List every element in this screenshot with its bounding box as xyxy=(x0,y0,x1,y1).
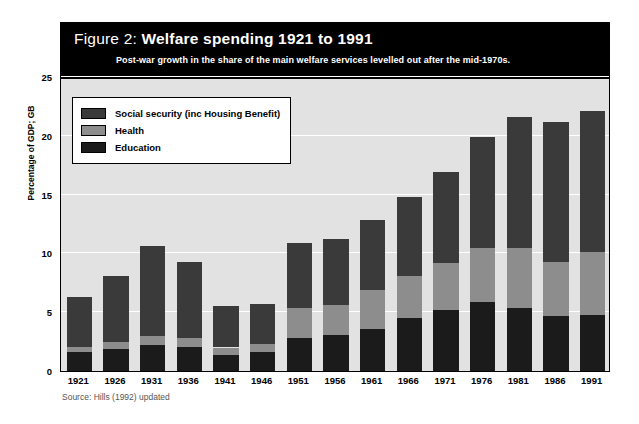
bar-segment-education[interactable] xyxy=(67,352,93,371)
bar-segment-social-security[interactable] xyxy=(507,117,533,248)
y-axis-title: Percentage of GDP; GB xyxy=(26,106,36,201)
bar-segment-social-security[interactable] xyxy=(360,220,386,289)
chart-legend: Social security (inc Housing Benefit)Hea… xyxy=(72,97,291,164)
bar-segment-social-security[interactable] xyxy=(397,197,423,276)
bar-segment-education[interactable] xyxy=(250,352,276,371)
bar-segment-health[interactable] xyxy=(580,252,606,314)
bar-segment-health[interactable] xyxy=(323,305,349,334)
legend-swatch-health xyxy=(81,125,106,136)
bar-segment-education[interactable] xyxy=(397,318,423,371)
x-tick-label: 1986 xyxy=(537,375,574,386)
bar-segment-social-security[interactable] xyxy=(287,243,313,308)
bar-segment-education[interactable] xyxy=(470,302,496,371)
bar-segment-education[interactable] xyxy=(507,308,533,372)
bar-segment-education[interactable] xyxy=(213,355,239,371)
bar-segment-health[interactable] xyxy=(287,308,313,339)
bar-segment-education[interactable] xyxy=(543,316,569,371)
bar-segment-education[interactable] xyxy=(177,347,203,371)
bar-segment-social-security[interactable] xyxy=(213,306,239,347)
bar-segment-education[interactable] xyxy=(580,315,606,371)
legend-item-health[interactable]: Health xyxy=(81,122,280,139)
y-tick-label: 0 xyxy=(26,366,52,377)
bar-segment-social-security[interactable] xyxy=(323,239,349,305)
bar-segment-health[interactable] xyxy=(433,263,459,310)
bar-segment-health[interactable] xyxy=(507,248,533,308)
x-tick-label: 1981 xyxy=(500,375,537,386)
bar-segment-health[interactable] xyxy=(177,338,203,347)
title-text: Welfare spending 1921 to 1991 xyxy=(141,30,372,47)
x-tick-label: 1971 xyxy=(427,375,464,386)
bar-segment-health[interactable] xyxy=(250,344,276,352)
bar-group[interactable] xyxy=(433,77,459,371)
bar-segment-health[interactable] xyxy=(360,290,386,329)
bar-segment-education[interactable] xyxy=(360,329,386,371)
x-tick-label: 1926 xyxy=(97,375,134,386)
source-note: Source: Hills (1992) updated xyxy=(62,392,170,402)
figure-number: Figure 2: xyxy=(74,30,141,47)
legend-label: Health xyxy=(115,125,144,136)
x-axis-tick-labels: 1921192619311936194119461951195619611966… xyxy=(60,375,610,391)
x-tick-label: 1936 xyxy=(170,375,207,386)
bar-segment-social-security[interactable] xyxy=(67,297,93,348)
bar-group[interactable] xyxy=(507,77,533,371)
bar-segment-social-security[interactable] xyxy=(177,262,203,338)
x-tick-label: 1921 xyxy=(60,375,97,386)
bar-segment-health[interactable] xyxy=(397,276,423,318)
bar-segment-social-security[interactable] xyxy=(103,276,129,342)
bar-segment-health[interactable] xyxy=(103,342,129,349)
bar-group[interactable] xyxy=(397,77,423,371)
bar-segment-education[interactable] xyxy=(140,345,166,371)
x-tick-label: 1976 xyxy=(463,375,500,386)
bar-segment-health[interactable] xyxy=(140,336,166,345)
bar-segment-education[interactable] xyxy=(323,335,349,371)
bar-segment-education[interactable] xyxy=(287,338,313,371)
x-tick-label: 1931 xyxy=(133,375,170,386)
x-tick-label: 1966 xyxy=(390,375,427,386)
x-tick-label: 1951 xyxy=(280,375,317,386)
x-tick-label: 1956 xyxy=(317,375,354,386)
bar-group[interactable] xyxy=(470,77,496,371)
bar-segment-health[interactable] xyxy=(213,348,239,355)
bar-segment-health[interactable] xyxy=(67,347,93,352)
legend-swatch-social-security xyxy=(81,108,106,119)
x-tick-label: 1941 xyxy=(207,375,244,386)
legend-swatch-education xyxy=(81,142,106,153)
bar-segment-social-security[interactable] xyxy=(140,246,166,335)
bar-group[interactable] xyxy=(323,77,349,371)
bar-group[interactable] xyxy=(543,77,569,371)
bar-segment-health[interactable] xyxy=(470,248,496,302)
x-tick-label: 1961 xyxy=(353,375,390,386)
bar-segment-education[interactable] xyxy=(433,310,459,371)
bar-segment-social-security[interactable] xyxy=(250,304,276,344)
title-band: Figure 2: Welfare spending 1921 to 1991 … xyxy=(60,22,610,78)
y-tick-label: 25 xyxy=(26,72,52,83)
bar-segment-social-security[interactable] xyxy=(580,111,606,252)
subtitle: Post-war growth in the share of the main… xyxy=(116,55,510,65)
bar-segment-education[interactable] xyxy=(103,349,129,371)
x-tick-label: 1991 xyxy=(573,375,610,386)
page-title: Figure 2: Welfare spending 1921 to 1991 xyxy=(74,30,373,48)
legend-item-education[interactable]: Education xyxy=(81,139,280,156)
bar-group[interactable] xyxy=(580,77,606,371)
bar-segment-social-security[interactable] xyxy=(433,172,459,263)
legend-item-social-security[interactable]: Social security (inc Housing Benefit) xyxy=(81,105,280,122)
legend-label: Social security (inc Housing Benefit) xyxy=(115,108,280,119)
figure-container: Figure 2: Welfare spending 1921 to 1991 … xyxy=(0,0,639,424)
y-tick-label: 10 xyxy=(26,248,52,259)
legend-label: Education xyxy=(115,142,161,153)
bar-segment-social-security[interactable] xyxy=(543,122,569,262)
bar-group[interactable] xyxy=(360,77,386,371)
x-tick-label: 1946 xyxy=(243,375,280,386)
bar-segment-health[interactable] xyxy=(543,262,569,316)
y-tick-label: 5 xyxy=(26,307,52,318)
bar-segment-social-security[interactable] xyxy=(470,137,496,248)
